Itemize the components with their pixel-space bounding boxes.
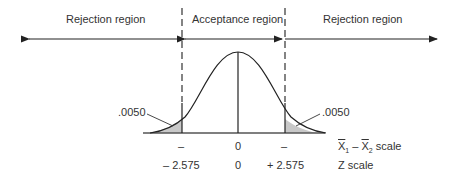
right-rejection-label: Rejection region	[323, 13, 403, 25]
left-tail-area: .0050	[118, 106, 146, 118]
z-right-value: + 2.575	[267, 159, 304, 171]
acceptance-label: Acceptance region	[192, 13, 283, 25]
xbar-scale-label: X1 – X2 scale	[338, 140, 401, 154]
xbar-right-tick: –	[281, 140, 287, 152]
left-tail-shade	[150, 119, 182, 133]
z-left-value: – 2.575	[163, 159, 200, 171]
z-center-value: 0	[235, 159, 241, 171]
z-scale-label: Z scale	[338, 159, 373, 171]
left-rejection-label: Rejection region	[66, 13, 146, 25]
xbar-center: 0	[235, 140, 241, 152]
right-tail-area: .0050	[322, 106, 350, 118]
right-tail-shade	[285, 119, 317, 133]
xbar-left-tick: –	[178, 140, 184, 152]
right-tail-leader	[296, 114, 320, 126]
left-tail-leader	[147, 114, 173, 126]
